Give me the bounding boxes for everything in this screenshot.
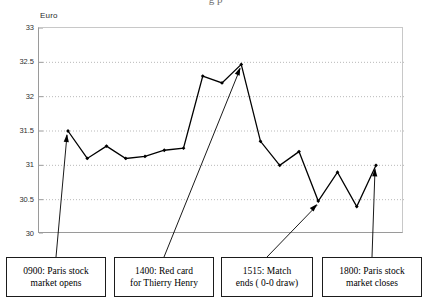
chart-figure: g p Euro 3332.53231.53130.530 0900: Pari…	[0, 0, 431, 303]
data-point-marker	[162, 148, 166, 152]
y-tick-label: 32.5	[0, 57, 34, 66]
callout-line-1: 1800: Paris stock	[339, 265, 404, 277]
series-line	[68, 64, 376, 206]
y-tick-label: 31	[0, 160, 34, 169]
callout-line-2: for Thierry Henry	[130, 277, 198, 289]
y-tick-label: 32	[0, 92, 34, 101]
plot-area	[38, 27, 403, 233]
series-canvas	[39, 28, 404, 234]
callout-line-2: market closes	[339, 277, 404, 289]
callout-line-1: 1515: Match	[236, 265, 299, 277]
callout-box-0900: 0900: Paris stock market opens	[6, 257, 106, 297]
y-tick-label: 30	[0, 229, 34, 238]
callout-box-1400: 1400: Red card for Thierry Henry	[114, 257, 214, 297]
cropped-title: g p	[0, 0, 431, 8]
callout-box-1800: 1800: Paris stock market closes	[322, 257, 422, 297]
data-point-marker	[182, 146, 186, 150]
callout-line-2: ends ( 0-0 draw)	[236, 277, 299, 289]
data-point-marker	[143, 155, 147, 159]
data-point-marker	[201, 74, 205, 78]
y-tick-label: 31.5	[0, 126, 34, 135]
callout-line-1: 1400: Red card	[130, 265, 198, 277]
callout-box-1515: 1515: Match ends ( 0-0 draw)	[221, 257, 313, 297]
callout-line-2: market opens	[23, 277, 88, 289]
callout-line-1: 0900: Paris stock	[23, 265, 88, 277]
y-tick-label: 30.5	[0, 195, 34, 204]
y-tick-label: 33	[0, 23, 34, 32]
y-axis-label: Euro	[40, 11, 58, 20]
